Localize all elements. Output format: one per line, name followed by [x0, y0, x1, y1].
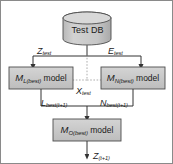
diagram-canvas: Test DB ML(best) model MN(best) model MO… [0, 0, 173, 164]
diagram-svg [1, 1, 173, 164]
model-bottom-node [53, 119, 121, 141]
model-left-node [9, 67, 73, 89]
model-right-node [101, 67, 165, 89]
merge-connectors [41, 89, 133, 119]
database-node [63, 12, 111, 45]
